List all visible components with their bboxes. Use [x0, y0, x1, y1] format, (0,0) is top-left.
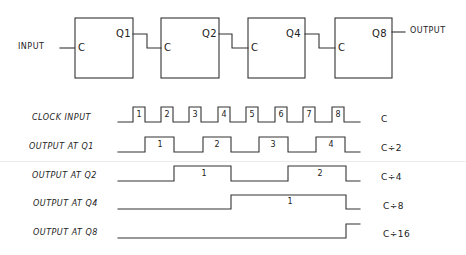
ff3-output-label: Q4: [286, 28, 301, 39]
ff2-clock-label: C: [164, 42, 171, 53]
ratio-q1: C÷2: [381, 143, 402, 153]
wire-q4-to-c4: [305, 34, 335, 48]
ratio-q8: C÷16: [383, 229, 410, 239]
counter-block-diagram: [60, 18, 405, 78]
timing-waveforms: [118, 107, 360, 238]
ff1-clock-label: C: [78, 42, 85, 53]
clock-pulse-number: 7: [306, 110, 311, 119]
ratio-q2: C÷4: [381, 172, 402, 182]
q4-pulse-number: 1: [287, 197, 292, 206]
q2-pulse-number: 2: [317, 169, 322, 178]
q2-pulse-number: 1: [201, 169, 206, 178]
clock-pulse-number: 1: [136, 110, 141, 119]
ratio-q4: C÷8: [383, 201, 404, 211]
ratio-clock: C: [381, 114, 388, 124]
row-label-clock: CLOCK INPUT: [32, 113, 91, 122]
waveform-q2: [118, 166, 360, 181]
row-label-q1: OUTPUT AT Q1: [29, 142, 94, 151]
clock-pulse-number: 5: [249, 110, 254, 119]
q1-pulse-number: 2: [214, 140, 219, 149]
clock-pulse-number: 3: [192, 110, 197, 119]
q1-pulse-number: 1: [157, 140, 162, 149]
ff1-output-label: Q1: [116, 28, 131, 39]
wire-q1-to-c2: [133, 34, 161, 48]
q1-pulse-number: 3: [270, 140, 275, 149]
clock-pulse-number: 8: [335, 110, 340, 119]
row-label-q8: OUTPUT AT Q8: [33, 228, 98, 237]
waveform-q1: [118, 137, 360, 152]
clock-pulse-number: 2: [164, 110, 169, 119]
waveform-q4: [118, 195, 360, 209]
clock-pulse-number: 6: [278, 110, 283, 119]
ff3-clock-label: C: [251, 42, 258, 53]
output-label: OUTPUT: [410, 26, 446, 35]
clock-pulse-number: 4: [221, 110, 226, 119]
ff4-clock-label: C: [338, 42, 345, 53]
ff4-output-label: Q8: [372, 28, 387, 39]
wire-q2-to-c3: [219, 34, 248, 48]
q1-pulse-number: 4: [328, 140, 333, 149]
input-label: INPUT: [18, 42, 44, 51]
row-label-q2: OUTPUT AT Q2: [32, 171, 97, 180]
row-label-q4: OUTPUT AT Q4: [33, 199, 98, 208]
diagram-canvas: [0, 0, 466, 255]
waveform-q8: [118, 224, 360, 238]
ff2-output-label: Q2: [202, 28, 217, 39]
waveform-clock: [118, 107, 360, 122]
